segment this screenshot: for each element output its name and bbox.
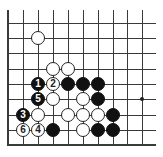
white-stone (61, 62, 75, 76)
black-stone (106, 123, 120, 137)
board-edge-bottom (8, 144, 156, 146)
white-stone-move-4: 4 (31, 123, 45, 137)
move-number: 1 (35, 79, 41, 89)
move-number: 6 (20, 125, 26, 135)
black-stone (91, 123, 105, 137)
grid-line-horizontal (8, 23, 156, 24)
star-point (140, 97, 144, 101)
black-stone-move-3: 3 (16, 108, 30, 122)
grid-line-vertical (142, 10, 143, 146)
black-stone (76, 77, 90, 91)
black-stone (61, 77, 75, 91)
white-stone (76, 108, 90, 122)
white-stone (46, 92, 60, 106)
move-number: 3 (20, 110, 26, 120)
black-stone (46, 123, 60, 137)
white-stone (76, 92, 90, 106)
grid-line-horizontal (8, 69, 156, 70)
go-board: 125364 (0, 0, 163, 157)
black-stone-move-5: 5 (31, 92, 45, 106)
black-stone (91, 77, 105, 91)
board-edge-left (7, 10, 9, 146)
move-number: 4 (35, 125, 41, 135)
white-stone (61, 108, 75, 122)
white-stone (91, 108, 105, 122)
grid-line-horizontal (8, 53, 156, 54)
white-stone (76, 123, 90, 137)
white-stone (46, 62, 60, 76)
white-stone-move-2: 2 (46, 77, 60, 91)
black-stone-move-1: 1 (31, 77, 45, 91)
move-number: 2 (50, 79, 56, 89)
white-stone (31, 31, 45, 45)
black-stone (91, 92, 105, 106)
grid-line-vertical (127, 10, 128, 146)
black-stone (106, 108, 120, 122)
white-stone (31, 108, 45, 122)
white-stone-move-6: 6 (16, 123, 30, 137)
move-number: 5 (35, 94, 41, 104)
